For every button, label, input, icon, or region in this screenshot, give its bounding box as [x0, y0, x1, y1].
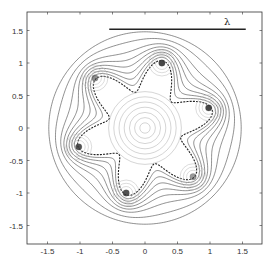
x-tick-label: 0.5 [172, 247, 184, 256]
hot-spot [206, 105, 212, 111]
inner-ring [129, 112, 160, 143]
y-tick-label: -1 [16, 189, 24, 198]
x-tick-label: 1.5 [237, 247, 249, 256]
y-tick-label: 0.5 [12, 92, 24, 101]
x-tick-label: 0 [143, 247, 148, 256]
hot-spot [190, 174, 196, 180]
y-tick-label: -1.5 [9, 222, 23, 231]
x-tick-label: -1.5 [41, 247, 55, 256]
inner-ring [109, 92, 182, 165]
hot-spot [159, 60, 165, 66]
x-tick-label: -1 [76, 247, 84, 256]
hot-spot [92, 75, 98, 81]
x-tick-label: 1 [208, 247, 213, 256]
lambda-scale-bar: λ [109, 16, 246, 29]
inner-ring [119, 102, 171, 154]
y-axis-ticks: -1.5-1-0.500.511.5 [9, 27, 262, 231]
hot-spot [123, 190, 129, 196]
x-tick-label: -0.5 [106, 247, 120, 256]
inner-ring [114, 97, 176, 159]
inner-ring [135, 118, 156, 139]
contour-lines [49, 32, 241, 224]
inner-ring [124, 107, 166, 149]
contour-plot: λ -1.5-1-0.500.511.5 -1.5-1-0.500.511.5 [0, 0, 276, 269]
y-tick-label: 0 [19, 124, 24, 133]
inner-ring [140, 123, 150, 133]
y-tick-label: 1 [19, 59, 24, 68]
scale-bar-label: λ [224, 16, 231, 27]
y-tick-label: -0.5 [9, 157, 23, 166]
hot-spot [76, 144, 82, 150]
x-axis-ticks: -1.5-1-0.500.511.5 [41, 12, 249, 256]
y-tick-label: 1.5 [12, 27, 24, 36]
